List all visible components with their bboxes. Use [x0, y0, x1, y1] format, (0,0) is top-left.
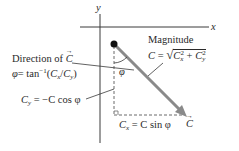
- magnitude-c: C: [148, 50, 155, 61]
- inverse-exponent: −1: [39, 67, 46, 75]
- vector-origin-dot: [111, 41, 118, 48]
- direction-eq: = tan: [18, 68, 39, 79]
- magnitude-eq: =: [158, 50, 164, 61]
- direction-label: Direction of C: [12, 53, 73, 64]
- vector-c-label: C: [186, 118, 193, 129]
- angle-phi-label: φ: [119, 66, 125, 77]
- cx-component-label: Cx = C sin φ: [119, 119, 171, 134]
- magnitude-plus: +: [187, 50, 193, 61]
- angle-phi-arc: [114, 57, 127, 63]
- right-angle-marker: [114, 111, 118, 115]
- cy-lhs: C: [21, 94, 28, 105]
- y-axis-label: y: [96, 2, 101, 13]
- magnitude-title: Magnitude: [148, 34, 194, 45]
- cy-rhs: = −C cos φ: [34, 94, 81, 105]
- direction-vector-symbol: C: [66, 53, 73, 64]
- cx-lhs: C: [119, 119, 126, 130]
- sqrt-radicand: Cx2 + Cy2: [173, 49, 205, 61]
- x-axis-label: x: [211, 21, 216, 32]
- cx-lhs-sub: x: [126, 124, 129, 132]
- magnitude-cy-sup: 2: [202, 49, 206, 57]
- close-paren: ): [73, 68, 77, 79]
- direction-formula: φ= tan−1(Cx/Cy): [12, 66, 77, 83]
- cy-component-label: Cy = −C cos φ: [21, 94, 81, 109]
- magnitude-formula: C = √Cx2 + Cy2: [148, 48, 206, 65]
- magnitude-cx-sup: 2: [180, 49, 184, 57]
- cx-rhs: = C sin φ: [132, 119, 171, 130]
- direction-title: Direction of: [12, 53, 63, 64]
- cy-lhs-sub: y: [28, 99, 31, 107]
